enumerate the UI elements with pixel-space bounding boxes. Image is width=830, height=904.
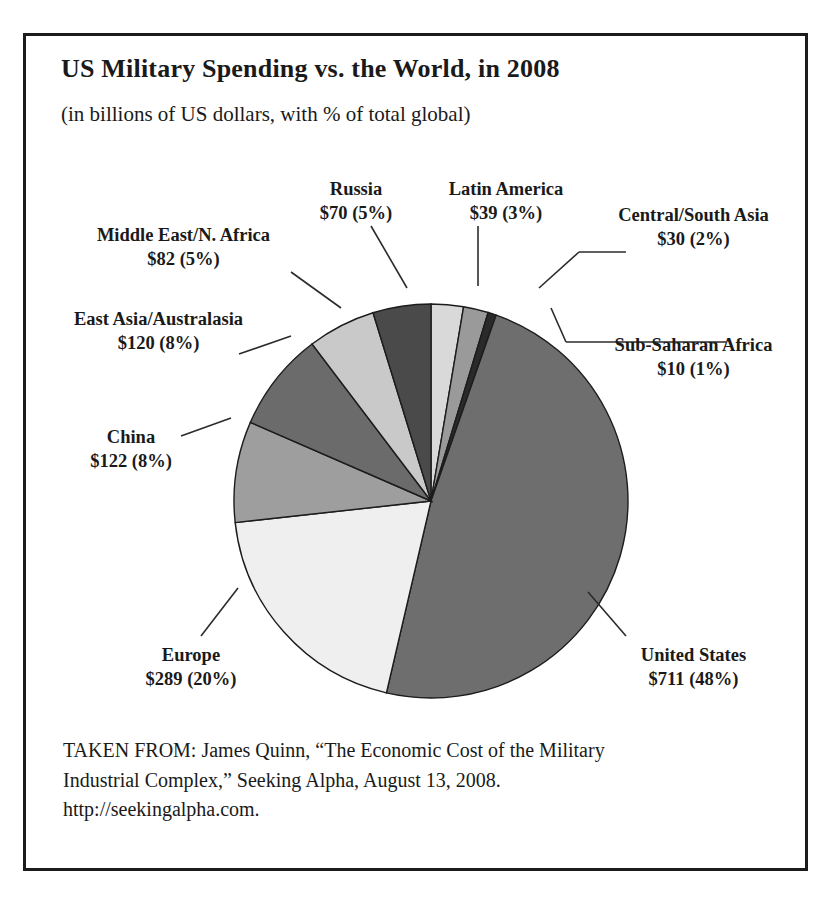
callout-sub-saharan-africa: Sub-Saharan Africa $10 (1%) xyxy=(586,334,801,381)
callout-united-states: United States $711 (48%) xyxy=(586,644,801,691)
callout-east-asia-australasia: East Asia/Australasia $120 (8%) xyxy=(36,308,281,355)
callout-united-states-name: United States xyxy=(586,644,801,668)
callout-central-south-asia-name: Central/South Asia xyxy=(586,204,801,228)
callout-china: China $122 (8%) xyxy=(56,426,206,473)
pie-slices xyxy=(234,304,628,698)
leader-csasia-b xyxy=(539,252,579,288)
callout-east-asia-australasia-value: $120 (8%) xyxy=(36,332,281,356)
callout-latin-america-value: $39 (3%) xyxy=(426,202,586,226)
callout-united-states-value: $711 (48%) xyxy=(586,668,801,692)
callout-russia-name: Russia xyxy=(291,178,421,202)
callout-latin-america: Latin America $39 (3%) xyxy=(426,178,586,225)
callout-central-south-asia: Central/South Asia $30 (2%) xyxy=(586,204,801,251)
callout-middle-east-n-africa-value: $82 (5%) xyxy=(61,248,306,272)
callout-sub-saharan-africa-value: $10 (1%) xyxy=(586,358,801,382)
callout-china-value: $122 (8%) xyxy=(56,450,206,474)
callout-russia-value: $70 (5%) xyxy=(291,202,421,226)
callout-china-name: China xyxy=(56,426,206,450)
callout-europe: Europe $289 (20%) xyxy=(96,644,286,691)
source-caption-line-1: TAKEN FROM: James Quinn, “The Economic C… xyxy=(63,736,763,766)
callout-europe-name: Europe xyxy=(96,644,286,668)
callout-europe-value: $289 (20%) xyxy=(96,668,286,692)
leader-russia xyxy=(371,226,407,288)
source-caption-line-3: http://seekingalpha.com. xyxy=(63,795,763,825)
callout-middle-east-n-africa: Middle East/N. Africa $82 (5%) xyxy=(61,224,306,271)
callout-central-south-asia-value: $30 (2%) xyxy=(586,228,801,252)
callout-east-asia-australasia-name: East Asia/Australasia xyxy=(36,308,281,332)
figure-frame: US Military Spending vs. the World, in 2… xyxy=(23,33,808,871)
callout-russia: Russia $70 (5%) xyxy=(291,178,421,225)
callout-sub-saharan-africa-name: Sub-Saharan Africa xyxy=(586,334,801,358)
source-caption: TAKEN FROM: James Quinn, “The Economic C… xyxy=(63,736,763,825)
callout-middle-east-n-africa-name: Middle East/N. Africa xyxy=(61,224,306,248)
callout-latin-america-name: Latin America xyxy=(426,178,586,202)
source-caption-line-2: Industrial Complex,” Seeking Alpha, Augu… xyxy=(63,766,763,796)
